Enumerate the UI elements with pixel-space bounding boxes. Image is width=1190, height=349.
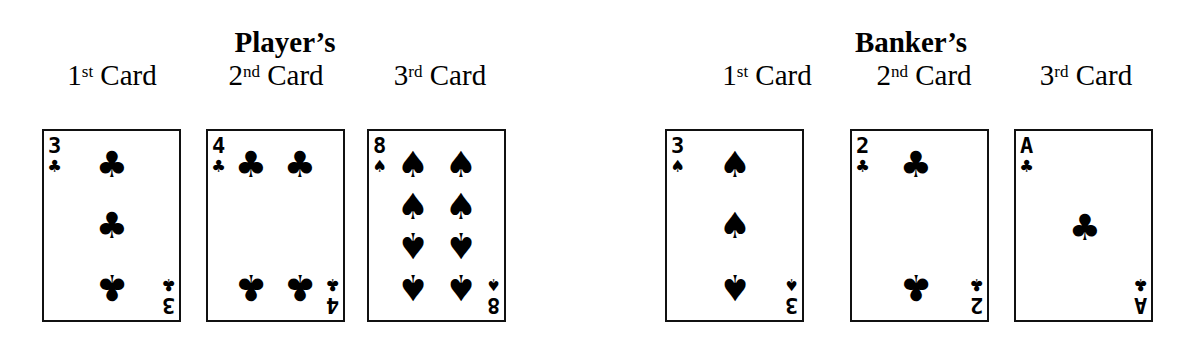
spade-icon: ♠ <box>445 189 477 225</box>
player-col-2-label: 2nd Card <box>216 58 336 92</box>
club-icon: ♣ <box>1134 275 1146 295</box>
spade-icon: ♠ <box>719 147 751 183</box>
club-icon: ♣ <box>235 269 267 305</box>
club-icon: ♣ <box>284 269 316 305</box>
club-icon: ♣ <box>326 275 338 295</box>
card-corner-index: A ♣ <box>1134 275 1147 316</box>
banker-col-1-label: 1st Card <box>707 58 827 92</box>
spade-icon: ♠ <box>397 227 429 263</box>
spade-icon: ♠ <box>785 275 797 295</box>
player-col-1-label: 1st Card <box>52 58 172 92</box>
banker-col-2-label: 2nd Card <box>864 58 984 92</box>
spade-icon: ♠ <box>445 147 477 183</box>
card-corner-index: 8 ♠ <box>487 275 500 316</box>
spade-icon: ♠ <box>719 269 751 305</box>
card-corner-index: 2 ♣ <box>856 135 869 176</box>
club-icon: ♣ <box>970 275 982 295</box>
spade-icon: ♠ <box>397 269 429 305</box>
club-icon: ♣ <box>96 269 128 305</box>
card-corner-index: 3 ♠ <box>785 275 798 316</box>
card-corner-index: 4 ♣ <box>212 135 225 176</box>
player-title: Player’s <box>222 26 348 58</box>
spade-icon: ♠ <box>397 147 429 183</box>
player-card-2: 4 ♣ ♣ ♣ ♣ ♣ 4 ♣ <box>206 129 345 322</box>
card-corner-index: 2 ♣ <box>970 275 983 316</box>
banker-card-3: A ♣ ♣ A ♣ <box>1014 129 1153 322</box>
card-corner-index: 4 ♣ <box>326 275 339 316</box>
banker-card-1: 3 ♠ ♠ ♠ ♠ 3 ♠ <box>665 129 804 322</box>
player-card-3: 8 ♠ ♠ ♠ ♠ ♠ ♠ ♠ ♠ ♠ 8 ♠ <box>367 129 506 322</box>
card-corner-index: 3 ♠ <box>671 135 684 176</box>
club-icon: ♣ <box>162 275 174 295</box>
banker-title: Banker’s <box>846 26 976 58</box>
club-icon: ♣ <box>1069 210 1101 246</box>
card-corner-index: 8 ♠ <box>373 135 386 176</box>
club-icon: ♣ <box>213 156 225 176</box>
spade-icon: ♠ <box>445 227 477 263</box>
banker-card-2: 2 ♣ ♣ ♣ 2 ♣ <box>850 129 989 322</box>
club-icon: ♣ <box>900 269 932 305</box>
card-corner-index: 3 ♣ <box>162 275 175 316</box>
player-card-1: 3 ♣ ♣ ♣ ♣ 3 ♣ <box>42 129 181 322</box>
club-icon: ♣ <box>235 147 267 183</box>
spade-icon: ♠ <box>719 208 751 244</box>
spade-icon: ♠ <box>672 156 684 176</box>
club-icon: ♣ <box>857 156 869 176</box>
player-col-3-label: 3rd Card <box>380 58 500 92</box>
card-corner-index: A ♣ <box>1020 135 1033 176</box>
spade-icon: ♠ <box>374 156 386 176</box>
card-corner-index: 3 ♣ <box>48 135 61 176</box>
club-icon: ♣ <box>284 147 316 183</box>
club-icon: ♣ <box>96 147 128 183</box>
club-icon: ♣ <box>96 208 128 244</box>
spade-icon: ♠ <box>397 189 429 225</box>
club-icon: ♣ <box>49 156 61 176</box>
spade-icon: ♠ <box>487 275 499 295</box>
club-icon: ♣ <box>900 147 932 183</box>
banker-col-3-label: 3rd Card <box>1026 58 1146 92</box>
spade-icon: ♠ <box>445 269 477 305</box>
club-icon: ♣ <box>1021 156 1033 176</box>
